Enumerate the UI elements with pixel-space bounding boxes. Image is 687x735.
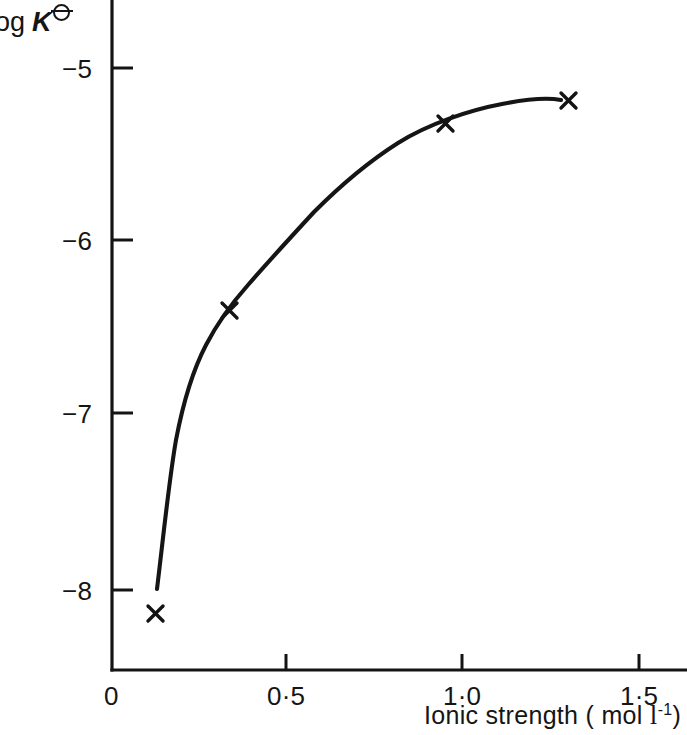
y-tick-label--6: −6 <box>62 226 92 257</box>
y-tick-label--5: −5 <box>62 54 92 85</box>
x-tick-label-0-5: 0·5 <box>267 681 305 712</box>
y-axis-label-log: log <box>0 7 25 37</box>
y-tick-label--7: −7 <box>62 399 92 430</box>
y-axis-ticks <box>112 68 133 590</box>
chart-plot-area <box>0 0 687 735</box>
x-axis-label-prefix: Ionic strength ( mol <box>424 701 643 729</box>
x-axis-label-unit: l <box>650 700 658 730</box>
y-axis-label: logK <box>0 2 72 38</box>
y-axis-label-k: K <box>25 7 52 37</box>
x-axis-ticks <box>286 654 639 670</box>
data-point-markers <box>148 93 576 621</box>
data-curve <box>157 99 561 589</box>
x-axis-label-suffix: ) <box>672 701 681 729</box>
y-tick-label--8: −8 <box>62 576 92 607</box>
figure-container: −5 −6 −7 −8 0 0·5 1·0 1·5 logK Ionic str… <box>0 0 687 735</box>
standard-state-icon <box>53 4 72 23</box>
data-point-1 <box>148 606 163 621</box>
x-axis-label: Ionic strength ( mol l-1) <box>424 700 681 731</box>
x-axis-label-exponent: -1 <box>658 701 673 718</box>
x-tick-label-0: 0 <box>104 681 119 712</box>
data-point-4 <box>561 93 576 108</box>
